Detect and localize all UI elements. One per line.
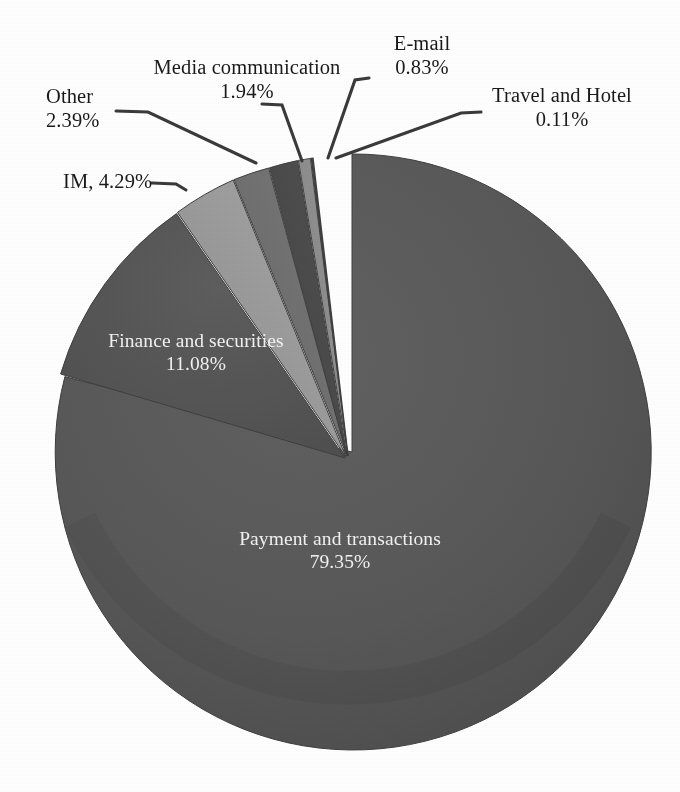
label-e-mail-line2: 0.83%: [370, 56, 474, 80]
label-other-line1: Other: [46, 85, 93, 107]
pie-slices: [55, 154, 651, 750]
label-travel-and-hotel-line2: 0.11%: [478, 108, 646, 132]
label-travel-and-hotel-line1: Travel and Hotel: [492, 84, 632, 106]
label-e-mail-line1: E-mail: [394, 32, 450, 54]
label-payment-and-transactions-line2: 79.35%: [195, 550, 485, 573]
label-e-mail: E-mail 0.83%: [370, 32, 474, 80]
pie-chart-figure: Other 2.39% IM, 4.29% Media communicatio…: [0, 0, 680, 792]
label-payment-and-transactions-line1: Payment and transactions: [239, 528, 441, 549]
label-other: Other 2.39%: [46, 85, 99, 133]
leader-line-other: [116, 111, 256, 163]
label-media-communication: Media communication 1.94%: [142, 56, 352, 104]
label-finance-and-securities-line1: Finance and securities: [108, 330, 283, 351]
label-media-communication-line2: 1.94%: [142, 80, 352, 104]
leader-line-media-communication: [262, 104, 302, 161]
leader-line-im: [152, 183, 186, 190]
label-other-line2: 2.39%: [46, 109, 99, 133]
label-travel-and-hotel: Travel and Hotel 0.11%: [478, 84, 646, 132]
label-im-line1: IM, 4.29%: [63, 170, 152, 192]
label-im: IM, 4.29%: [63, 170, 152, 194]
label-media-communication-line1: Media communication: [154, 56, 341, 78]
leader-line-travel-and-hotel: [336, 112, 481, 158]
label-payment-and-transactions: Payment and transactions 79.35%: [195, 527, 485, 573]
label-finance-and-securities: Finance and securities 11.08%: [60, 329, 332, 375]
label-finance-and-securities-line2: 11.08%: [60, 352, 332, 375]
